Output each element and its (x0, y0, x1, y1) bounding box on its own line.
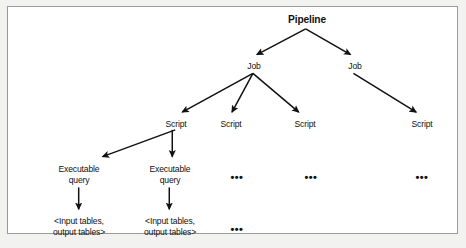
ellipsis-icon: ••• (416, 171, 429, 183)
node-executable-query-2: Executable query (149, 164, 190, 185)
node-script-4: Script (411, 119, 432, 130)
node-script-2: Script (220, 119, 241, 130)
node-script-4-label: Script (411, 119, 432, 129)
node-script-2-label: Script (220, 119, 241, 129)
node-executable-query-2-label: Executable query (149, 164, 190, 185)
script-1-to-exec-query-1 (103, 130, 176, 157)
node-executable-query-1-label: Executable query (58, 164, 99, 185)
ellipsis-tables-row-1: ••• (231, 225, 244, 233)
node-pipeline-label: Pipeline (288, 14, 326, 25)
node-tables-1: <Input tables, output tables> (53, 216, 105, 237)
pipeline-to-job-2 (306, 29, 351, 55)
node-job-2: Job (348, 61, 361, 72)
node-tables-2-label: <Input tables, output tables> (144, 216, 196, 237)
ellipsis-executable-row-1: ••• (231, 173, 244, 181)
node-script-1: Script (165, 119, 186, 130)
ellipsis-executable-row-2: ••• (305, 173, 318, 181)
ellipsis-icon: ••• (231, 171, 244, 183)
job-2-to-script-4 (353, 73, 416, 112)
ellipsis-icon: ••• (305, 171, 318, 183)
node-job-2-label: Job (348, 61, 361, 71)
pipeline-to-job-1 (257, 29, 306, 55)
node-pipeline: Pipeline (288, 15, 326, 26)
ellipsis-icon: ••• (231, 223, 244, 235)
node-executable-query-1: Executable query (58, 164, 99, 185)
job-1-to-script-3 (253, 73, 299, 112)
ellipsis-executable-row-3: ••• (416, 173, 429, 181)
node-script-1-label: Script (165, 119, 186, 129)
diagram-figure: Pipeline Job Job Script Script Script Sc… (7, 6, 458, 234)
edge-layer (79, 29, 416, 209)
node-tables-1-label: <Input tables, output tables> (53, 216, 105, 237)
node-tables-2: <Input tables, output tables> (144, 216, 196, 237)
node-job-1-label: Job (247, 61, 260, 71)
node-script-3: Script (294, 119, 315, 130)
node-script-3-label: Script (294, 119, 315, 129)
node-job-1: Job (247, 61, 260, 72)
